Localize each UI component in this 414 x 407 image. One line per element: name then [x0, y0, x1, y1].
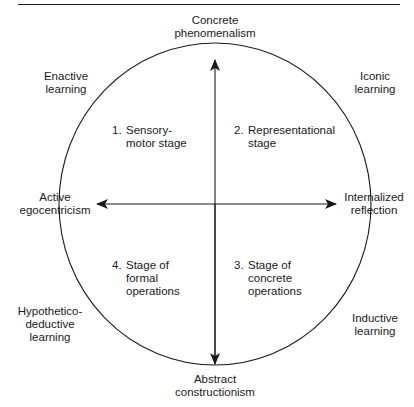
axis-label-right-line: Internalized: [336, 191, 412, 204]
corner-label-top-left: Enactive learning: [36, 70, 96, 96]
stage-line: Representational: [248, 124, 335, 136]
stage-line: Sensory-: [126, 124, 172, 136]
corner-label-line: learning: [350, 83, 400, 96]
corner-label-line: Enactive: [36, 70, 96, 83]
stage-line: formal: [112, 272, 180, 285]
axis-label-right: Internalized reflection: [336, 191, 412, 217]
corner-label-top-right: Iconic learning: [350, 70, 400, 96]
corner-label-line: learning: [10, 331, 90, 344]
corner-label-line: Iconic: [350, 70, 400, 83]
stage-line: stage: [234, 137, 335, 150]
stage-number: 4.: [112, 259, 126, 272]
stage-number: 3.: [234, 259, 248, 272]
stage-label-4: 4.Stage of formal operations: [112, 259, 180, 298]
axis-label-left-line: egocentricism: [14, 204, 96, 217]
stage-line: Stage of: [126, 259, 169, 271]
stage-label-2: 2.Representational stage: [234, 124, 335, 150]
stage-line: Stage of: [248, 259, 291, 271]
corner-label-line: Hypothetico-: [10, 305, 90, 318]
axis-label-bottom: Abstract constructionism: [160, 373, 270, 399]
axis-label-bottom-line: Abstract: [160, 373, 270, 386]
axis-label-left-line: Active: [14, 191, 96, 204]
stage-number: 2.: [234, 124, 248, 137]
axis-label-left: Active egocentricism: [14, 191, 96, 217]
stage-line: operations: [112, 285, 180, 298]
stage-number: 1.: [112, 124, 126, 137]
corner-label-bottom-right: Inductive learning: [340, 312, 410, 338]
stage-label-3: 3.Stage of concrete operations: [234, 259, 302, 298]
corner-label-line: deductive: [10, 318, 90, 331]
stage-line: operations: [234, 285, 302, 298]
stage-line: concrete: [234, 272, 302, 285]
axis-label-right-line: reflection: [336, 204, 412, 217]
axis-label-top-line: phenomenalism: [160, 27, 270, 40]
corner-label-bottom-left: Hypothetico- deductive learning: [10, 305, 90, 344]
stage-label-1: 1.Sensory- motor stage: [112, 124, 187, 150]
corner-label-line: learning: [340, 325, 410, 338]
axis-label-top-line: Concrete: [160, 14, 270, 27]
axis-label-bottom-line: constructionism: [160, 386, 270, 399]
corner-label-line: Inductive: [340, 312, 410, 325]
axis-label-top: Concrete phenomenalism: [160, 14, 270, 40]
corner-label-line: learning: [36, 83, 96, 96]
stage-line: motor stage: [112, 137, 187, 150]
